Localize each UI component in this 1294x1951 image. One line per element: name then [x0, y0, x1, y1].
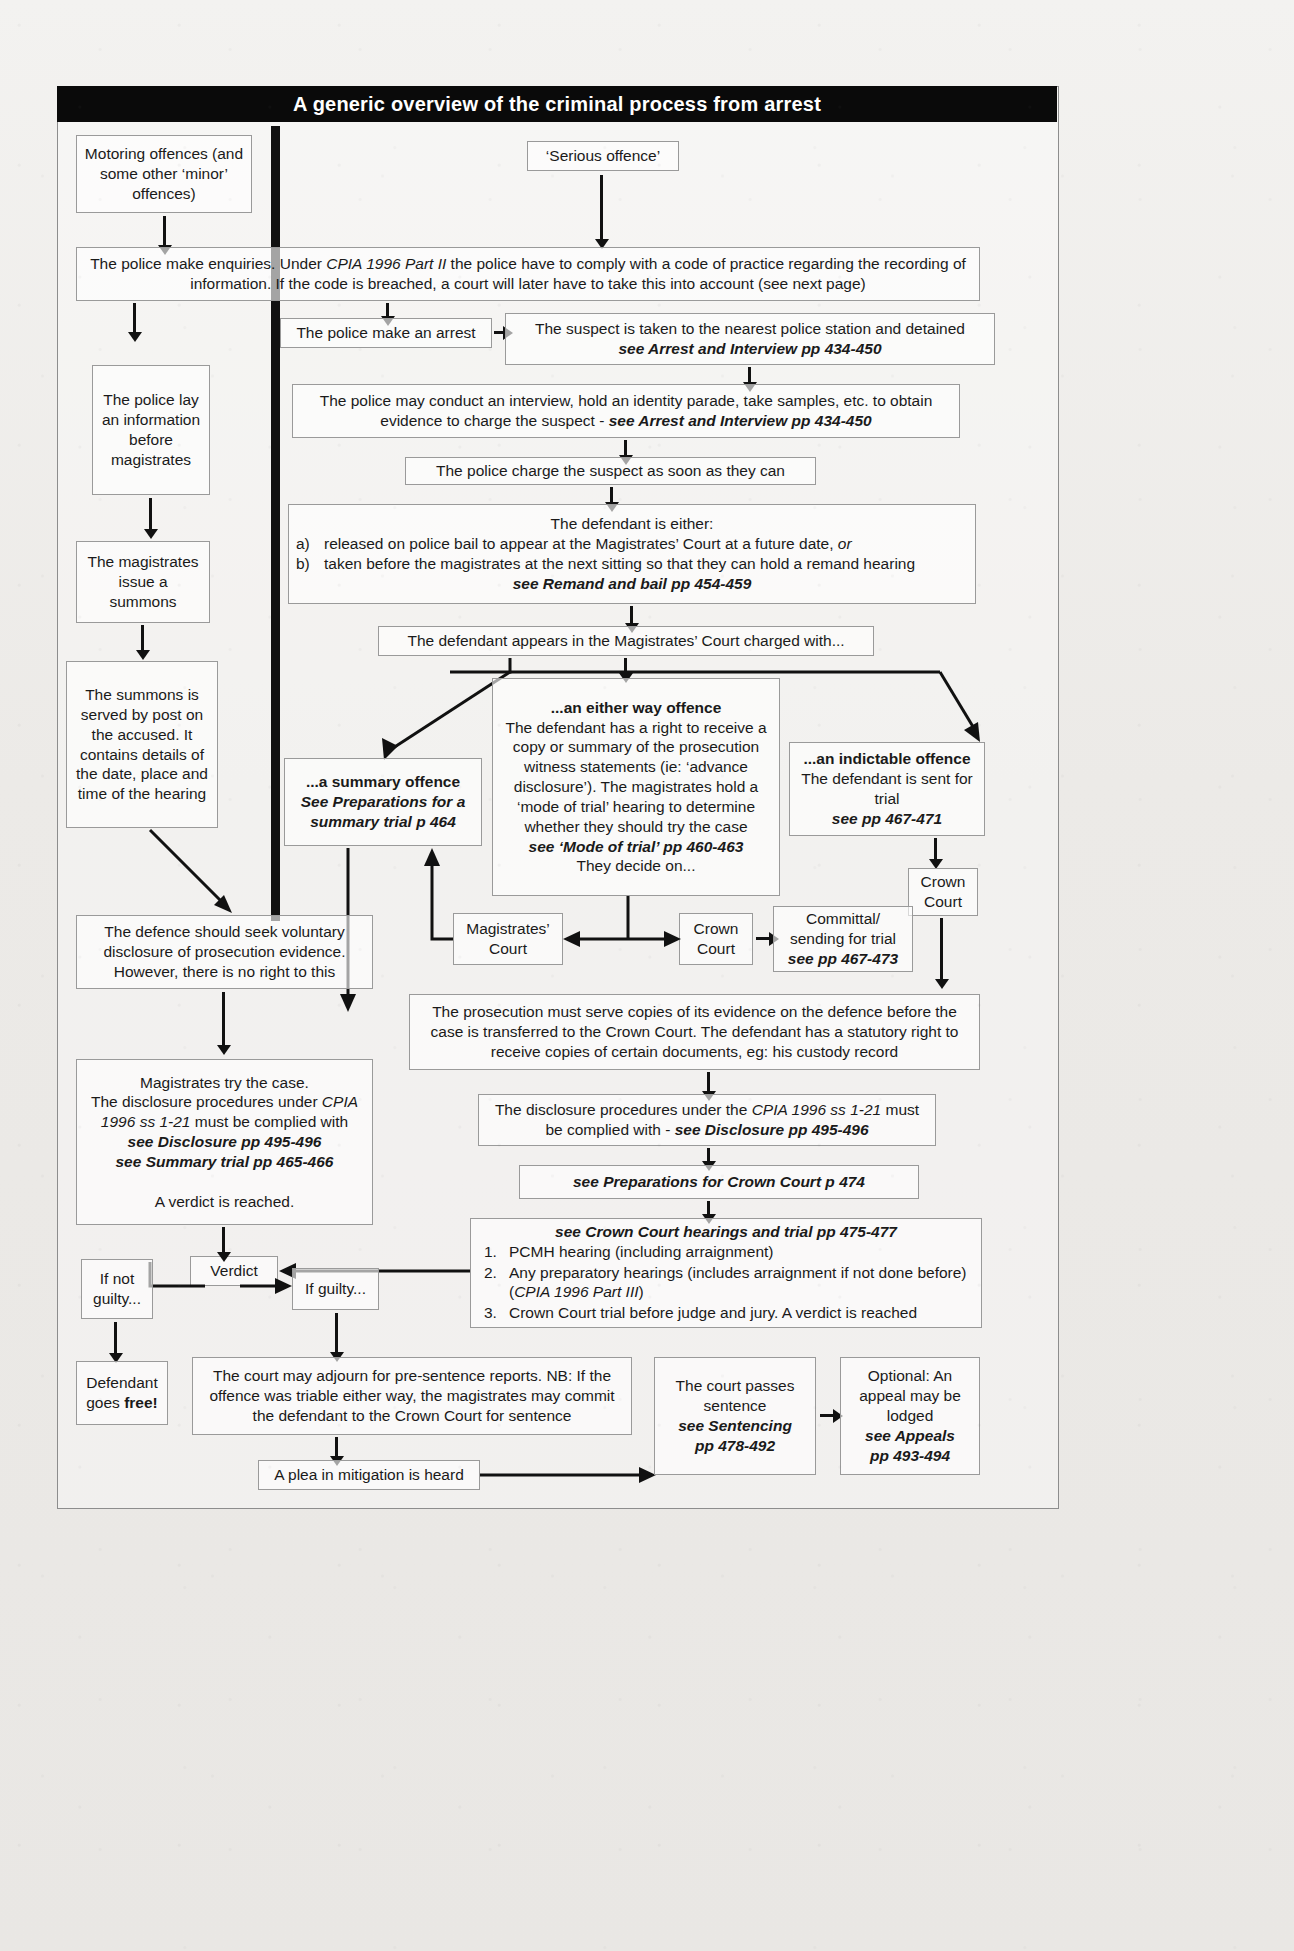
- node-defendant-is-either: The defendant is either: a) released on …: [288, 504, 976, 604]
- either-option-b: b) taken before the magistrates at the n…: [296, 554, 968, 574]
- node-crown-court-hearings: see Crown Court hearings and trial pp 47…: [470, 1218, 982, 1328]
- arrow-mags-to-verdict: [222, 1227, 225, 1253]
- either-option-a: a) released on police bail to appear at …: [296, 534, 968, 554]
- node-court-passes-sentence: The court passes sentence see Sentencing…: [654, 1357, 816, 1475]
- arrow-lay-to-summons: [149, 498, 152, 530]
- node-police-lay-information: The police lay an information before mag…: [92, 365, 210, 495]
- arrow-interview-to-charge: [624, 440, 627, 456]
- chart-title-bar: A generic overview of the criminal proce…: [57, 86, 1057, 122]
- node-summons-served: The summons is served by post on the acc…: [66, 661, 218, 828]
- node-summary-offence: ...a summary offence See Preparations fo…: [284, 758, 482, 846]
- arrow-arrest-to-suspect: [494, 331, 504, 334]
- node-if-not-guilty: If not guilty...: [81, 1259, 153, 1319]
- arrow-sentence-to-appeal: [820, 1414, 834, 1417]
- arrow-enquiries-to-lay-information: [133, 303, 136, 333]
- arrow-defence-to-mags-try: [222, 992, 225, 1046]
- node-police-interview: The police may conduct an interview, hol…: [292, 384, 960, 438]
- arrow-motoring-to-enquiries: [163, 216, 166, 246]
- arrow-crown-to-committal: [756, 937, 770, 940]
- arrow-charge-to-either: [610, 487, 613, 503]
- arrow-summons-to-served: [141, 625, 144, 651]
- node-disclosure-crown-court: The disclosure procedures under the CPIA…: [478, 1094, 936, 1146]
- node-police-make-arrest: The police make an arrest: [280, 318, 492, 348]
- arrow-enquiries-to-arrest: [386, 303, 389, 317]
- arrow-guilty-to-adjourn: [335, 1313, 338, 1353]
- cc-list-item-2: 2. Any preparatory hearings (includes ar…: [484, 1263, 980, 1303]
- cc-list-item-1: 1. PCMH hearing (including arraignment): [484, 1242, 980, 1262]
- node-crown-court-right: Crown Court: [908, 868, 978, 916]
- cc-list-item-3: 3. Crown Court trial before judge and ju…: [484, 1303, 980, 1323]
- arrow-indictable-to-crown: [934, 838, 937, 860]
- vertical-divider: [271, 126, 280, 921]
- node-either-way-offence: ...an either way offence The defendant h…: [492, 678, 780, 896]
- node-defence-voluntary-disclosure: The defence should seek voluntary disclo…: [76, 915, 373, 989]
- arrow-prosecution-to-disclosure: [707, 1072, 710, 1092]
- page-title: A generic overview of the criminal proce…: [293, 93, 821, 116]
- arrow-crown-right-down: [940, 918, 943, 980]
- node-magistrates-try-case: Magistrates try the case. The disclosure…: [76, 1059, 373, 1225]
- page-canvas: A generic overview of the criminal proce…: [0, 0, 1294, 1951]
- node-police-enquiries: The police make enquiries. Under CPIA 19…: [76, 247, 980, 301]
- node-motoring-offences: Motoring offences (and some other ‘minor…: [76, 135, 252, 213]
- arrow-appears-to-eitherway: [624, 658, 627, 674]
- arrow-not-guilty-to-free: [114, 1322, 117, 1354]
- node-crown-court-mid: Crown Court: [679, 913, 753, 965]
- node-court-adjourn: The court may adjourn for pre-sentence r…: [192, 1357, 632, 1435]
- arrow-serious-to-enquiries: [600, 175, 603, 240]
- arrow-prep-to-hearings: [707, 1201, 710, 1215]
- node-defendant-appears: The defendant appears in the Magistrates…: [378, 626, 874, 656]
- node-serious-offence: ‘Serious offence’: [527, 141, 679, 171]
- arrow-disclosure-to-prep: [707, 1148, 710, 1162]
- node-suspect-taken: The suspect is taken to the nearest poli…: [505, 313, 995, 365]
- node-prep-crown-court: see Preparations for Crown Court p 474: [519, 1165, 919, 1199]
- node-indictable-offence: ...an indictable offence The defendant i…: [789, 742, 985, 836]
- node-police-charge: The police charge the suspect as soon as…: [405, 457, 816, 485]
- node-defendant-goes-free: Defendant goes free!: [76, 1361, 168, 1425]
- node-verdict: Verdict: [190, 1256, 278, 1286]
- arrow-adjourn-to-mitigation: [335, 1437, 338, 1457]
- node-magistrates-issue-summons: The magistrates issue a summons: [76, 541, 210, 623]
- node-prosecution-serve-copies: The prosecution must serve copies of its…: [409, 994, 980, 1070]
- node-optional-appeal: Optional: An appeal may be lodged see Ap…: [840, 1357, 980, 1475]
- node-if-guilty: If guilty...: [292, 1268, 379, 1310]
- node-plea-mitigation: A plea in mitigation is heard: [258, 1460, 480, 1490]
- node-magistrates-court: Magistrates’ Court: [453, 913, 563, 965]
- arrow-suspect-to-interview: [748, 367, 751, 383]
- node-committal: Committal/ sending for trial see pp 467-…: [773, 906, 913, 972]
- arrow-either-to-appears: [630, 606, 633, 624]
